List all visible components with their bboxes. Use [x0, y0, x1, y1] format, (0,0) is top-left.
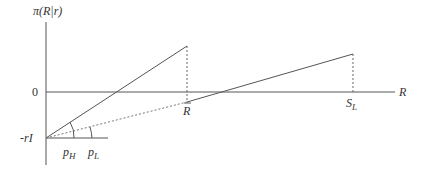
- sl-label: SL: [346, 96, 357, 112]
- rbar-label: R: [182, 104, 191, 118]
- zero-label: 0: [32, 85, 38, 99]
- y-axis-label: π(R|r): [33, 4, 62, 18]
- pl-label: pL: [87, 145, 99, 161]
- ph-label: pH: [62, 145, 76, 161]
- pl-angle-arc: [90, 127, 92, 138]
- low-slope-line: [187, 54, 353, 102]
- low-slope-dashed-line: [46, 102, 187, 138]
- x-axis-label: R: [398, 85, 407, 99]
- intercept-label: -rI: [20, 131, 34, 145]
- ph-angle-arc: [70, 122, 74, 138]
- payoff-diagram: π(R|r) R 0 -rI R SL pH pL: [0, 0, 422, 174]
